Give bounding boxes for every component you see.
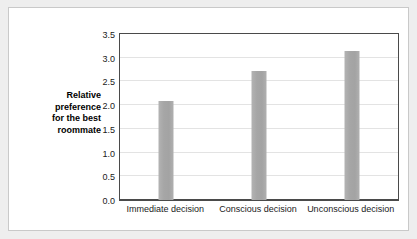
x-axis-tick-labels: Immediate decisionConscious decisionUnco… bbox=[119, 204, 399, 220]
y-axis-tick-2.5: 2.5 bbox=[91, 77, 115, 87]
bar-slot bbox=[120, 34, 213, 200]
bar-3[interactable] bbox=[344, 51, 359, 200]
figure-panel: Relative preference for the best roommat… bbox=[8, 7, 409, 231]
y-axis-tick-0.5: 0.5 bbox=[91, 172, 115, 182]
x-axis-label-2: Conscious decision bbox=[212, 204, 305, 214]
y-axis-tick-3.5: 3.5 bbox=[91, 30, 115, 40]
x-axis-label-1: Immediate decision bbox=[119, 204, 212, 214]
y-axis-tick-labels: 0.00.51.01.52.02.53.03.5 bbox=[89, 33, 115, 201]
bar-slot bbox=[305, 34, 398, 200]
plot-area bbox=[119, 33, 399, 201]
y-axis-tick-2.0: 2.0 bbox=[91, 101, 115, 111]
x-axis-label-3: Unconscious decision bbox=[304, 204, 397, 214]
plot-inner bbox=[120, 34, 398, 200]
bar-2[interactable] bbox=[251, 71, 266, 200]
y-axis-tick-3.0: 3.0 bbox=[91, 54, 115, 64]
y-axis-tick-0.0: 0.0 bbox=[91, 196, 115, 206]
bar-slot bbox=[213, 34, 306, 200]
chart-figure: Relative preference for the best roommat… bbox=[0, 0, 417, 239]
y-axis-tick-1.5: 1.5 bbox=[91, 125, 115, 135]
y-axis-tick-1.0: 1.0 bbox=[91, 149, 115, 159]
bar-1[interactable] bbox=[159, 101, 174, 200]
